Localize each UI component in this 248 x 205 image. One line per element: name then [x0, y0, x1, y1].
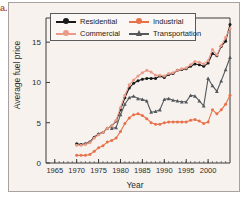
x-tick-label: 1975 — [90, 166, 107, 175]
series-industrial — [75, 94, 231, 157]
legend-label-industrial: Industrial — [153, 16, 183, 28]
y-tick-label: 15 — [32, 38, 41, 47]
legend-label-commercial: Commercial — [80, 28, 120, 40]
y-axis-label: Average fuel price — [12, 30, 22, 120]
x-tick-label: 1965 — [46, 166, 63, 175]
series-commercial — [75, 27, 231, 147]
legend-marker-residential — [63, 18, 69, 24]
chart-legend: Residential Commercial Industrial Transp… — [50, 13, 196, 41]
x-tick-label: 2000 — [200, 166, 217, 175]
y-tick-label: 0 — [37, 159, 42, 168]
x-tick-label: 1985 — [134, 166, 151, 175]
legend-marker-commercial — [63, 30, 69, 36]
legend-label-transportation: Transportation — [153, 28, 201, 40]
figure-container: a. 1965197019751980198519901995200005101… — [0, 0, 248, 205]
series-layer — [75, 23, 232, 157]
legend-marker-industrial — [136, 18, 142, 24]
legend-marker-transportation — [136, 30, 142, 36]
y-tick-label: 10 — [32, 78, 41, 87]
x-tick-label: 1990 — [156, 166, 173, 175]
series-residential — [75, 23, 231, 146]
x-axis-label: Year — [46, 180, 224, 190]
x-tick-label: 1980 — [112, 166, 129, 175]
y-tick-label: 5 — [37, 119, 42, 128]
x-tick-label: 1970 — [68, 166, 85, 175]
x-tick-label: 1995 — [178, 166, 195, 175]
legend-label-residential: Residential — [80, 16, 117, 28]
